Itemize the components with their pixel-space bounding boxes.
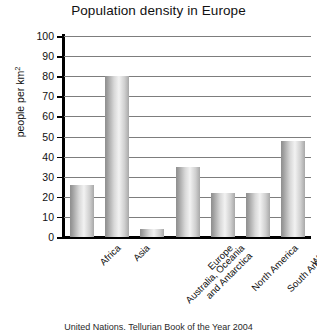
y-axis-tick (57, 56, 63, 58)
gridline (64, 56, 311, 57)
y-axis-tick-label: 80 (14, 71, 54, 81)
y-axis-tick (57, 217, 63, 219)
gridline (64, 76, 311, 77)
y-axis-tick-label: 50 (14, 132, 54, 142)
y-axis-tick (57, 36, 63, 38)
gridline (64, 137, 311, 138)
y-axis-tick (57, 157, 63, 159)
gridline (64, 96, 311, 97)
y-axis-tick (57, 96, 63, 98)
y-axis-tick (57, 237, 63, 239)
y-axis-tick (57, 197, 63, 199)
bar (140, 229, 164, 237)
plot-area (64, 36, 311, 237)
gridline (64, 36, 311, 37)
y-axis-tick-label: 100 (14, 31, 54, 41)
y-axis-tick (57, 116, 63, 118)
bar (281, 141, 305, 237)
y-axis-tick-label: 0 (14, 232, 54, 242)
y-axis-tick-label: 60 (14, 111, 54, 121)
y-axis-label-exponent: 2 (13, 67, 22, 71)
y-axis-tick (57, 137, 63, 139)
y-axis-tick (57, 76, 63, 78)
bar (176, 167, 200, 237)
gridline (64, 116, 311, 117)
y-axis-tick-label: 10 (14, 212, 54, 222)
x-axis-category-label: Asia (131, 243, 152, 264)
bar (70, 185, 94, 237)
x-axis-category-label: Africa (98, 243, 123, 268)
chart-caption: United Nations, Tellurian Book of the Ye… (0, 322, 317, 330)
y-axis-tick-label: 40 (14, 152, 54, 162)
y-axis-tick-label: 90 (14, 51, 54, 61)
y-axis-tick-label: 20 (14, 192, 54, 202)
bar-chart: Population density in Europe people per … (0, 0, 317, 330)
y-axis-tick-label: 70 (14, 91, 54, 101)
bar (211, 193, 235, 237)
bar (246, 193, 270, 237)
bar (105, 76, 129, 237)
y-axis-tick (57, 177, 63, 179)
chart-title: Population density in Europe (0, 3, 317, 18)
y-axis-tick-label: 30 (14, 172, 54, 182)
gridline (64, 157, 311, 158)
